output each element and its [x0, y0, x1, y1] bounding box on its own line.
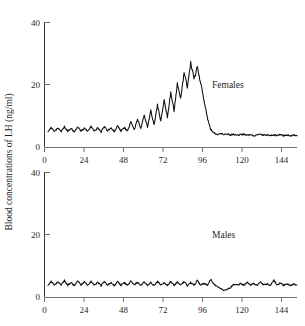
- females-xlabel-144: 144: [275, 155, 289, 165]
- females-xlabel-72: 72: [159, 155, 168, 165]
- males-xlabel-24: 24: [80, 305, 90, 315]
- females-data-trace: [48, 61, 297, 136]
- males-xlabel-96: 96: [198, 305, 208, 315]
- males-ylabel-0: 0: [36, 292, 41, 302]
- females-series-label: Females: [212, 80, 244, 90]
- males-ylabel-20: 20: [31, 230, 41, 240]
- panel-males: 40 20 0 0 24 48 72 96 120 144 Males: [31, 168, 297, 316]
- females-ylabel-40: 40: [31, 18, 41, 28]
- males-series-label: Males: [212, 230, 236, 240]
- females-xlabel-0: 0: [42, 155, 47, 165]
- males-ylabel-40: 40: [31, 168, 41, 178]
- females-ylabel-20: 20: [31, 80, 41, 90]
- chart-svg: Blood concentrations of LH (ng/ml) 40 20…: [0, 0, 305, 326]
- panel-females: 40 20 0 0 24 48 72 96 120 144 Females: [31, 18, 297, 166]
- females-xlabel-120: 120: [235, 155, 249, 165]
- males-data-trace: [48, 279, 297, 290]
- females-xlabel-24: 24: [80, 155, 90, 165]
- males-xlabel-0: 0: [42, 305, 47, 315]
- males-xlabel-144: 144: [275, 305, 289, 315]
- females-xlabel-96: 96: [198, 155, 208, 165]
- males-xlabel-120: 120: [235, 305, 249, 315]
- females-ylabel-0: 0: [36, 142, 41, 152]
- males-xlabel-48: 48: [119, 305, 129, 315]
- lh-concentration-figure: Blood concentrations of LH (ng/ml) 40 20…: [0, 0, 305, 326]
- females-xlabel-48: 48: [119, 155, 129, 165]
- males-xlabel-72: 72: [159, 305, 168, 315]
- y-axis-title: Blood concentrations of LH (ng/ml): [4, 93, 15, 230]
